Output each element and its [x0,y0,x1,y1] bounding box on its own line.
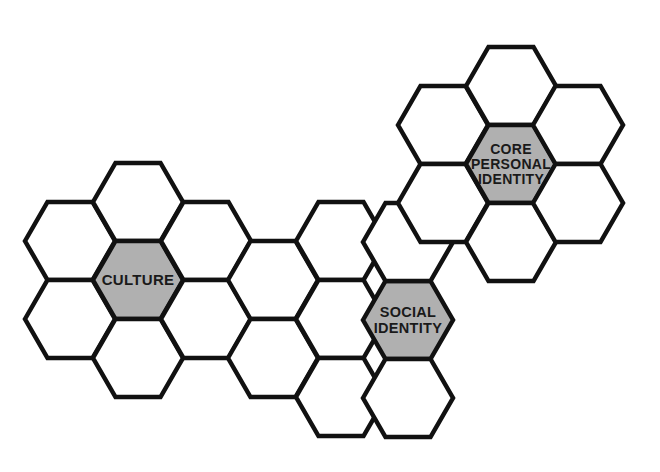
hex-culture-label: CULTURE [102,271,175,288]
hex-culture-label-line-1: CULTURE [102,271,175,288]
hex-core-identity-label-line-3: IDENTITY [478,171,545,187]
hexagon-identity-diagram: CULTURESOCIALIDENTITYCOREPERSONALIDENTIT… [0,0,660,472]
hex-social-lower-right [363,359,453,437]
hexagon-grid: CULTURESOCIALIDENTITYCOREPERSONALIDENTIT… [0,0,660,472]
hex-core-lower-right [533,164,623,242]
hex-social-identity-label: SOCIALIDENTITY [374,304,442,336]
hex-social-identity-label-line-2: IDENTITY [374,320,442,336]
hex-core-identity-label-line-2: PERSONAL [471,156,551,172]
hex-core-upper-right [533,86,623,164]
hex-core-identity-label-line-1: CORE [490,141,532,157]
hex-social-identity-label-line-1: SOCIAL [380,304,437,320]
hexagon-layer [25,47,623,437]
